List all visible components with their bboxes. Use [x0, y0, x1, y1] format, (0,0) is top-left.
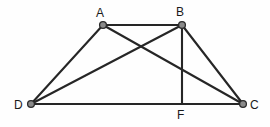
point-label-c: C [250, 99, 259, 111]
geometry-figure: ABCDF [0, 0, 270, 127]
vertex-dot-d [28, 101, 35, 108]
point-label-f: F [177, 109, 184, 121]
point-label-b: B [176, 6, 184, 18]
vertex-dot-a [100, 22, 107, 29]
geometry-canvas [0, 0, 270, 127]
point-label-a: A [96, 7, 104, 19]
vertex-dot-b [179, 22, 186, 29]
segment-bc [182, 25, 243, 104]
segment-ad [31, 25, 103, 104]
vertex-dot-c [240, 101, 247, 108]
diagonal-ac [103, 25, 243, 104]
edges-group [31, 25, 243, 104]
point-label-d: D [14, 99, 23, 111]
diagonal-db [31, 25, 182, 104]
